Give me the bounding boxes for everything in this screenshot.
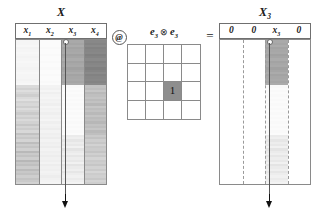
heat-column-x2 [39,40,62,184]
heat-cell [288,182,311,184]
heat-column-0 [243,40,266,184]
right-matrix-heatmap [219,39,311,185]
operator-at: @ [111,29,127,45]
kernel-cell [164,64,182,83]
left-matrix-title: X [15,5,107,21]
right-selected-column-marker [267,39,273,45]
kernel-cell [146,82,164,101]
column-label-x4: x4 [84,26,107,37]
kernel-cell [182,82,200,101]
right-matrix-column-labels: 0 0 x3 0 [219,24,311,39]
left-selected-column-marker [63,39,69,45]
operator-equals: = [203,28,217,44]
heat-column-x4 [84,40,107,184]
right-matrix-title: X3 [219,5,311,21]
kernel-cell [164,101,182,120]
kernel-cell [128,45,146,64]
column-label-zero-3: 0 [288,26,311,37]
heat-cell [243,182,266,184]
kernel-grid: 1 [127,44,201,120]
left-matrix-group: X x1 x2 x3 x4 [15,5,107,185]
column-label-x2: x2 [39,26,62,37]
kernel-cell [182,101,200,120]
kernel-group: e3⊗e3 1 [127,26,201,120]
column-separator [39,40,40,184]
kernel-cell [146,64,164,83]
left-matrix-column-labels: x1 x2 x3 x4 [15,24,107,39]
right-matrix-group: X3 0 0 x3 0 [219,5,311,185]
kernel-cell [128,82,146,101]
kernel-cell [182,45,200,64]
column-separator [243,40,244,184]
column-separator [288,40,289,184]
kernel-cell [146,45,164,64]
kernel-cell-active: 1 [164,82,182,101]
column-separator [84,40,85,184]
heat-cell [39,182,62,184]
kernel-cell [128,64,146,83]
kernel-cell [146,101,164,120]
heat-cell [16,182,39,184]
figure-canvas: X x1 x2 x3 x4 @ e3⊗e3 [0,0,325,219]
left-matrix-heatmap [15,39,107,185]
left-selected-column-guide [65,43,66,196]
column-separator [61,40,62,184]
column-label-zero-2: 0 [243,26,266,37]
column-label-zero-1: 0 [220,26,243,37]
column-label-x1: x1 [16,26,39,37]
kernel-cell [182,64,200,83]
column-separator [265,40,266,184]
heat-cell [220,182,243,184]
heat-column-0 [220,40,243,184]
heat-column-x1 [16,40,39,184]
right-selected-column-guide [269,43,270,196]
heat-cell [84,182,107,184]
heat-column-0 [288,40,311,184]
column-label-x3: x3 [61,26,84,37]
kernel-cell [128,101,146,120]
kernel-label: e3⊗e3 [127,26,201,39]
column-label-x3-result: x3 [265,26,288,37]
kernel-cell [164,45,182,64]
